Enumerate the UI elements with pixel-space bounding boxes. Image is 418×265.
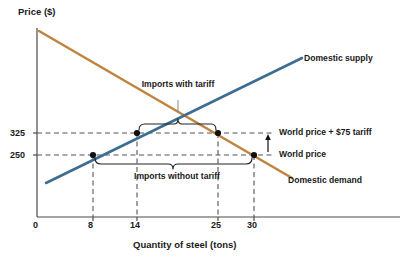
tariff-gap-arrow <box>265 134 271 152</box>
x-tick-label-14: 14 <box>130 220 140 230</box>
data-point-demand-at-tariff-price <box>215 130 221 136</box>
brace-imports-without-tariff <box>95 158 252 169</box>
annotation-imports-with-tariff: Imports with tariff <box>140 80 216 90</box>
series-label-domestic-supply: Domestic supply <box>304 54 373 64</box>
y-axis-title: Price ($) <box>18 7 56 18</box>
data-point-supply-at-tariff-price <box>134 130 140 136</box>
x-tick-marks <box>93 217 254 221</box>
data-point-demand-at-world-price <box>251 152 257 158</box>
x-axis-title: Quantity of steel (tons) <box>133 240 236 251</box>
reference-lines <box>37 133 275 155</box>
y-tick-label-325: 325 <box>10 128 25 138</box>
y-tick-label-250: 250 <box>10 150 25 160</box>
x-tick-label-0: 0 <box>33 220 38 230</box>
annotation-imports-without-tariff: Imports without tariff <box>131 172 223 182</box>
series-label-domestic-demand: Domestic demand <box>288 176 362 186</box>
data-point-supply-at-world-price <box>90 152 96 158</box>
x-tick-label-30: 30 <box>247 220 257 230</box>
x-tick-label-8: 8 <box>88 220 93 230</box>
reference-label-world-price: World price <box>279 150 326 160</box>
x-tick-label-25: 25 <box>211 220 221 230</box>
reference-label-world-price-plus-tariff: World price + $75 tariff <box>279 128 372 138</box>
domestic-supply-curve <box>46 58 302 183</box>
tariff-supply-demand-chart: Price ($) Quantity of steel (tons) 325 2… <box>0 0 418 265</box>
